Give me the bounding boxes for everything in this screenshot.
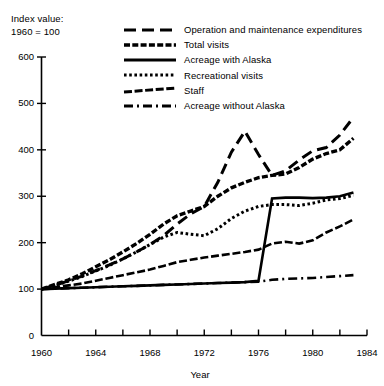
x-tick-label: 1972 [184,347,224,358]
x-tick-label: 1976 [239,347,279,358]
axes [37,57,367,336]
series-line [42,219,354,289]
y-tick-label: 100 [8,283,34,294]
series-line [42,117,354,289]
y-tick-label: 200 [8,237,34,248]
y-tick-label: 300 [8,190,34,201]
x-axis-title: Year [170,369,230,380]
x-tick-label: 1960 [22,347,62,358]
y-tick-label: 0 [8,330,34,341]
x-tick-label: 1980 [293,347,333,358]
y-tick-label: 500 [8,97,34,108]
series-line [42,138,354,289]
data-series [42,117,354,289]
x-tick-label: 1984 [347,347,384,358]
chart-figure: Index value:1960 = 100 Operation and mai… [0,0,384,386]
x-tick-label: 1968 [130,347,170,358]
y-tick-label: 600 [8,51,34,62]
y-tick-label: 400 [8,144,34,155]
plot-area [0,0,384,386]
x-tick-label: 1964 [76,347,116,358]
